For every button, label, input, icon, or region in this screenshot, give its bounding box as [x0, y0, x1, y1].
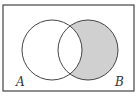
label-b: B — [114, 75, 124, 89]
venn-diagram: A B — [0, 0, 138, 96]
label-a: A — [15, 75, 25, 89]
